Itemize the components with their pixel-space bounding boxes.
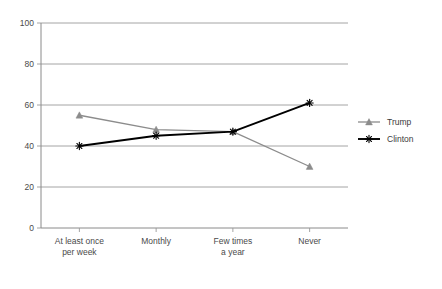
x-axis-tick-label: Few times (214, 236, 253, 246)
legend-label-clinton: Clinton (387, 134, 414, 144)
x-axis-tick-label: Never (298, 236, 321, 246)
series-line-clinton (79, 103, 309, 146)
x-axis-tick-label: a year (221, 247, 245, 257)
data-point-clinton-2 (229, 128, 236, 135)
x-axis-tick-label: At least once (55, 236, 104, 246)
line-chart: 020406080100At least onceper weekMonthly… (0, 0, 442, 289)
legend-marker-clinton (365, 135, 372, 142)
x-axis-tick-label: per week (62, 247, 97, 257)
y-axis-tick-label: 40 (25, 141, 35, 151)
data-point-trump-0 (76, 112, 83, 118)
y-axis-tick-label: 60 (25, 100, 35, 110)
x-axis-tick-label: Monthly (141, 236, 172, 246)
y-axis-tick-label: 80 (25, 59, 35, 69)
y-axis-tick-label: 20 (25, 182, 35, 192)
chart-container: 020406080100At least onceper weekMonthly… (0, 0, 442, 289)
data-point-clinton-3 (306, 99, 313, 106)
data-point-clinton-0 (76, 142, 83, 149)
legend-label-trump: Trump (387, 117, 412, 127)
data-point-clinton-1 (153, 132, 160, 139)
y-axis-tick-label: 100 (20, 18, 34, 28)
y-axis-tick-label: 0 (29, 223, 34, 233)
data-point-trump-3 (306, 163, 313, 169)
